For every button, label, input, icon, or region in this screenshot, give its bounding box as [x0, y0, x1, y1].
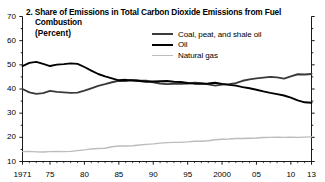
plot-area — [0, 0, 325, 182]
series-layer — [23, 62, 312, 152]
series-line-natural-gas — [23, 137, 312, 152]
series-line-coal-peat-and-shale-oil — [23, 74, 312, 94]
chart-figure: 2. Share of Emissions in Total Carbon Di… — [0, 0, 325, 182]
series-line-oil — [23, 62, 312, 103]
